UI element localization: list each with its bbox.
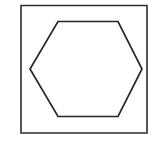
figure-svg [0, 0, 155, 155]
figure-canvas [0, 0, 155, 155]
canvas-background [0, 0, 155, 155]
